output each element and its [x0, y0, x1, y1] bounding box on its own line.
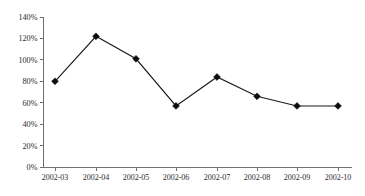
- x-axis-tick-label: 2002-04: [83, 173, 110, 182]
- y-axis: 0%20%40%60%80%100%120%140%: [18, 13, 43, 172]
- y-axis-tick-label: 20%: [22, 142, 37, 151]
- x-axis-tick-label: 2002-08: [244, 173, 271, 182]
- y-axis-tick-label: 80%: [22, 77, 37, 86]
- line-chart: 0%20%40%60%80%100%120%140% 2002-032002-0…: [0, 0, 365, 196]
- x-axis-tick-label: 2002-05: [123, 173, 150, 182]
- y-axis-tick-label: 140%: [18, 13, 37, 22]
- x-axis-tick-label: 2002-06: [163, 173, 190, 182]
- x-axis: 2002-032002-042002-052002-062002-072002-…: [42, 167, 352, 182]
- data-point-marker: [294, 103, 301, 110]
- x-axis-tick-label: 2002-10: [325, 173, 352, 182]
- y-axis-tick-label: 0%: [27, 163, 38, 172]
- x-axis-tick-label: 2002-09: [284, 173, 311, 182]
- y-axis-tick-label: 60%: [22, 99, 37, 108]
- data-point-marker: [335, 103, 342, 110]
- y-axis-tick-label: 120%: [18, 34, 37, 43]
- chart-plot-area: 0%20%40%60%80%100%120%140% 2002-032002-0…: [0, 0, 365, 196]
- y-axis-tick-label: 40%: [22, 120, 37, 129]
- data-series: [55, 36, 338, 106]
- data-point-marker: [254, 93, 261, 100]
- y-axis-tick-label: 100%: [18, 56, 37, 65]
- series-line: [55, 36, 338, 106]
- x-axis-tick-label: 2002-03: [42, 173, 69, 182]
- data-markers: [52, 33, 342, 109]
- data-point-marker: [214, 74, 221, 81]
- x-axis-tick-label: 2002-07: [204, 173, 231, 182]
